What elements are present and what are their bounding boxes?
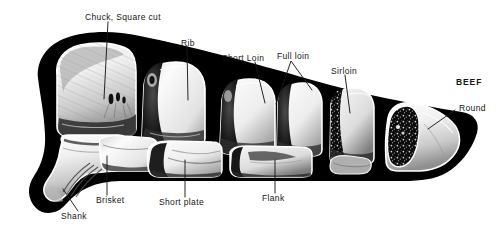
label-flank: Flank [262,194,285,203]
label-round: Round [459,104,486,113]
label-sirloin: Sirloin [331,67,357,76]
label-rib: Rib [181,39,195,48]
cut-full-loin [277,83,322,156]
label-shank: Shank [61,212,87,221]
cut-sirloin-lower [330,156,371,174]
cut-rib [142,62,205,145]
page-title: BEEF [456,78,482,87]
cut-chuck-square-cut [57,43,136,137]
beef-carcass-illustration [0,0,503,236]
cut-short-loin [220,79,275,154]
label-brisket: Brisket [96,196,124,205]
label-chuck-square-cut: Chuck, Square cut [85,13,161,22]
label-short-loin: Short Loin [222,54,264,63]
label-full-loin: Full loin [277,52,309,61]
cut-flank [230,146,312,177]
cut-sirloin [330,88,374,164]
label-short-plate: Short plate [159,198,204,207]
beef-cuts-figure: Chuck, Square cut Rib Short Loin Full lo… [0,0,503,236]
